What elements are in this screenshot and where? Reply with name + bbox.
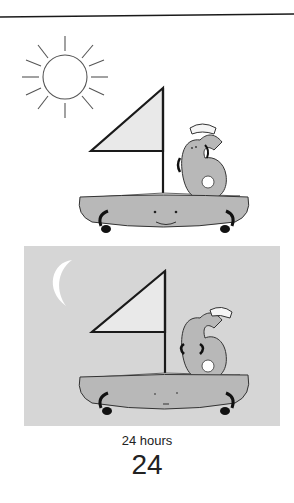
sun-icon [22, 36, 108, 118]
number-six-character [178, 124, 226, 200]
sailboat-icon [79, 88, 249, 233]
night-scene [24, 246, 280, 426]
caption-number: 24 [0, 449, 294, 481]
top-divider [0, 0, 294, 20]
day-scene [0, 20, 294, 240]
caption-label: 24 hours [0, 433, 294, 448]
